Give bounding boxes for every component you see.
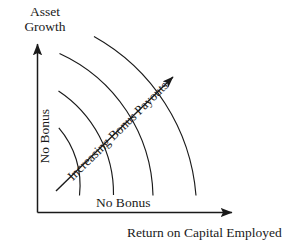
bonus-payout-diagram: Asset Growth Return on Capital Employed … [0,0,286,248]
label-no-bonus-horizontal: No Bonus [96,196,150,211]
iso-bonus-curve-4 [94,37,196,196]
axis-x-label: Return on Capital Employed [127,226,282,241]
axis-y-label-line2: Growth [17,20,73,35]
axis-y-label-line1: Asset [30,4,60,19]
label-no-bonus-vertical: No Bonus [38,90,53,182]
axis-y-label: Asset Growth [17,5,73,34]
